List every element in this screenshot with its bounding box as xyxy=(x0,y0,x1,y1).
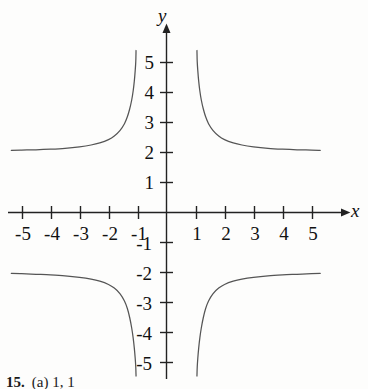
x-tick-label-3: 3 xyxy=(242,224,268,243)
x-tick-label-4: 4 xyxy=(271,224,297,243)
y-tick-label-neg5: -5 xyxy=(126,354,152,373)
caption-number: 15. xyxy=(6,374,25,389)
curve-upper-right xyxy=(197,51,320,151)
caption-text: (a) 1, 1 xyxy=(32,374,75,389)
graph-canvas xyxy=(0,0,368,389)
x-axis-label: x xyxy=(351,201,359,220)
y-tick-label-4: 4 xyxy=(128,83,154,102)
curve-upper-left xyxy=(11,51,136,151)
x-tick-label-neg5: -5 xyxy=(10,224,36,243)
x-tick-label-2: 2 xyxy=(213,224,239,243)
axes-group xyxy=(8,32,342,379)
y-tick-label-3: 3 xyxy=(128,113,154,132)
y-tick-label-2: 2 xyxy=(128,143,154,162)
y-tick-label-neg4: -4 xyxy=(126,324,152,343)
curve-lower-right xyxy=(197,273,320,376)
x-tick-label-neg2: -2 xyxy=(97,224,123,243)
y-tick-label-neg2: -2 xyxy=(126,264,152,283)
x-tick-label-1: 1 xyxy=(184,224,210,243)
curve-lower-left xyxy=(11,273,136,376)
y-tick-label-5: 5 xyxy=(128,53,154,72)
function-curves xyxy=(11,51,320,377)
figure-caption: 15.(a) 1, 1 xyxy=(6,374,362,389)
y-tick-label-neg1: -1 xyxy=(126,234,152,253)
x-tick-label-5: 5 xyxy=(300,224,326,243)
x-tick-label-neg4: -4 xyxy=(39,224,65,243)
y-tick-label-neg3: -3 xyxy=(126,294,152,313)
x-tick-label-neg3: -3 xyxy=(68,224,94,243)
figure-panel: y x -5 -4 -3 -2 -1 1 2 3 4 5 5 4 3 2 1 -… xyxy=(0,0,368,389)
y-tick-label-1: 1 xyxy=(128,173,154,192)
y-axis-label: y xyxy=(158,6,166,25)
